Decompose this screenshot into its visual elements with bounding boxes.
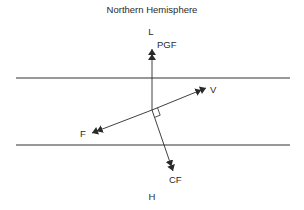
velocity-label: V xyxy=(210,84,217,95)
coriolis-arrow xyxy=(152,110,173,171)
pgf-label: PGF xyxy=(157,39,177,50)
coriolis-label: CF xyxy=(169,174,182,185)
velocity-arrow xyxy=(152,88,206,110)
high-pressure-label: H xyxy=(149,191,156,202)
friction-arrow xyxy=(92,110,152,133)
low-pressure-label: L xyxy=(148,26,153,37)
force-balance-diagram: Northern Hemisphere L H PGF V F CF xyxy=(0,0,304,210)
friction-label: F xyxy=(80,128,86,139)
right-angle-marker xyxy=(155,108,161,118)
diagram-title: Northern Hemisphere xyxy=(107,4,198,15)
